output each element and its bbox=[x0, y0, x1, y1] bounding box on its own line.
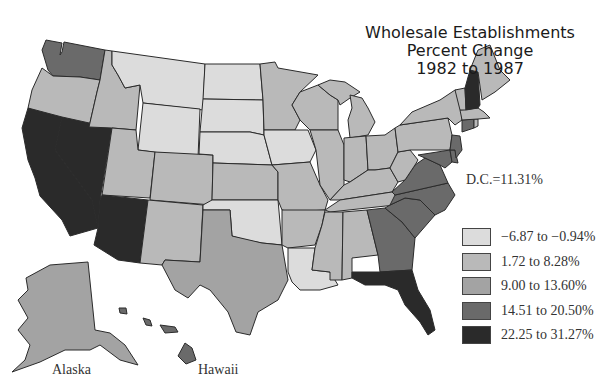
legend-item: −6.87 to −0.94% bbox=[462, 225, 595, 250]
state-new-york bbox=[400, 90, 462, 125]
alaska-label: Alaska bbox=[52, 362, 91, 378]
state-wyoming bbox=[138, 103, 200, 158]
legend-item: 1.72 to 8.28% bbox=[462, 250, 595, 275]
state-hawaii-islands-3 bbox=[119, 308, 127, 314]
state-hawaii-islands-2 bbox=[143, 318, 152, 326]
state-colorado bbox=[150, 152, 213, 205]
legend-swatch bbox=[462, 326, 491, 344]
legend-label: −6.87 to −0.94% bbox=[501, 229, 595, 245]
legend-swatch bbox=[462, 228, 491, 246]
title-line-1: Wholesale Establishments bbox=[340, 24, 600, 42]
state-michigan-lower bbox=[348, 95, 375, 138]
legend-item: 22.25 to 31.27% bbox=[462, 323, 595, 348]
dc-annotation: D.C.=11.31% bbox=[466, 172, 543, 188]
legend-swatch bbox=[462, 302, 491, 320]
state-connecticut bbox=[462, 119, 474, 132]
state-rhode-island bbox=[474, 119, 478, 128]
map-title: Wholesale Establishments Percent Change … bbox=[340, 24, 600, 78]
state-iowa bbox=[264, 130, 316, 165]
title-line-2: Percent Change bbox=[340, 42, 600, 60]
legend-label: 22.25 to 31.27% bbox=[501, 327, 594, 343]
state-washington bbox=[42, 40, 105, 80]
state-kansas bbox=[212, 163, 278, 200]
legend-label: 9.00 to 13.60% bbox=[501, 278, 587, 294]
state-alaska bbox=[12, 262, 138, 372]
state-hawaii-islands bbox=[160, 325, 178, 333]
state-north-dakota bbox=[203, 64, 263, 100]
title-line-3: 1982 to 1987 bbox=[340, 60, 600, 78]
legend-item: 9.00 to 13.60% bbox=[462, 274, 595, 299]
state-arizona bbox=[94, 195, 148, 263]
legend-swatch bbox=[462, 253, 491, 271]
legend: −6.87 to −0.94% 1.72 to 8.28% 9.00 to 13… bbox=[462, 225, 595, 348]
state-new-mexico bbox=[140, 200, 203, 265]
hawaii-label: Hawaii bbox=[198, 362, 238, 378]
state-florida bbox=[352, 270, 435, 335]
state-hawaii-big-island bbox=[178, 343, 196, 364]
legend-item: 14.51 to 20.50% bbox=[462, 299, 595, 324]
legend-label: 1.72 to 8.28% bbox=[501, 254, 580, 270]
legend-swatch bbox=[462, 277, 491, 295]
legend-label: 14.51 to 20.50% bbox=[501, 303, 594, 319]
state-south-dakota bbox=[200, 99, 264, 135]
